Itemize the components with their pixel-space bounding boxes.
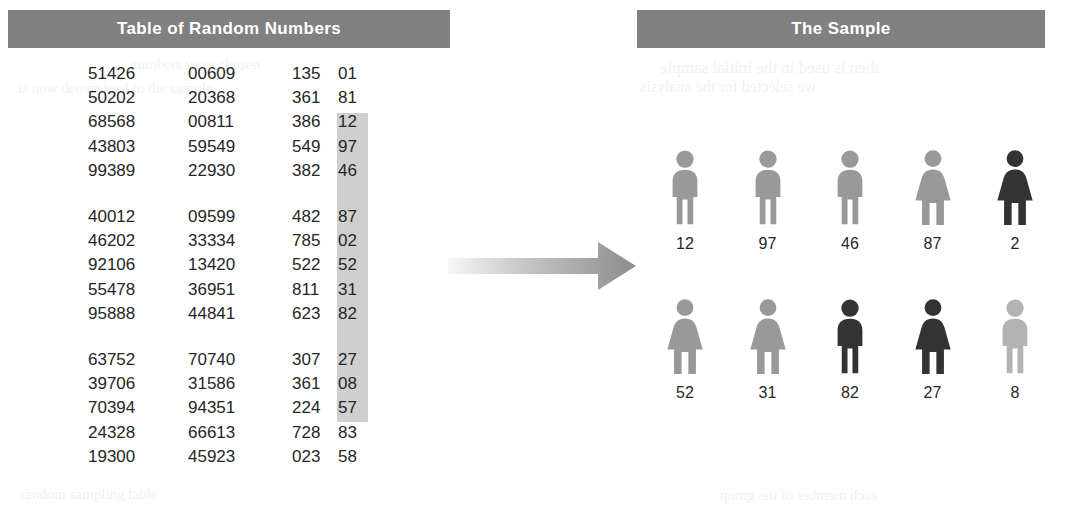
sample-person-label: 31 — [759, 384, 777, 402]
panel-header-label: Table of Random Numbers — [117, 19, 341, 39]
sample-person-8: 8 — [985, 285, 1045, 402]
table-cell-random-number: 95888 — [88, 302, 188, 326]
person-female-icon — [912, 285, 954, 377]
page-bleed-text: each member of the group — [720, 487, 877, 504]
sample-person-label: 27 — [924, 384, 942, 402]
table-cell-random-number: 44841 — [188, 302, 292, 326]
table-cell-selected-digits: 31 — [338, 278, 372, 302]
table-cell-random-number: 39706 — [88, 372, 188, 396]
page-bleed-text: then is used in the initial sample — [660, 58, 879, 78]
table-cell-selected-digits: 82 — [338, 302, 372, 326]
table-cell-random-number: 33334 — [188, 229, 292, 253]
table-cell-random-number: 24328 — [88, 420, 188, 444]
table-cell-random-number: 68568 — [88, 110, 188, 134]
person-male-icon — [831, 285, 869, 377]
table-cell-random-number: 55478 — [88, 278, 188, 302]
table-row: 685680081138612 — [88, 110, 372, 134]
table-cell-selected-digits: 01 — [338, 62, 372, 86]
table-cell-random-number: 13420 — [188, 253, 292, 277]
sample-person-97: 97 — [738, 136, 798, 253]
sample-row-1: 129746872 — [655, 136, 1045, 253]
sample-person-label: 97 — [759, 235, 777, 253]
table-cell-selected-digits: 83 — [338, 420, 372, 444]
table-cell-selected-digits: 87 — [338, 205, 372, 229]
panel-header-table-of-random-numbers: Table of Random Numbers — [8, 10, 450, 48]
table-row: 514260060913501 — [88, 62, 372, 86]
sample-person-2: 2 — [985, 136, 1045, 253]
table-cell-random-number: 09599 — [188, 205, 292, 229]
person-male-icon — [666, 136, 704, 228]
table-row: 993892293038246 — [88, 159, 372, 183]
table-cell-selected-digits: 57 — [338, 396, 372, 420]
table-row: 400120959948287 — [88, 205, 372, 229]
table-cell-random-number: 549 — [292, 135, 338, 159]
table-cell-random-number: 386 — [292, 110, 338, 134]
table-cell-random-number: 46202 — [88, 229, 188, 253]
sample-person-82: 82 — [820, 285, 880, 402]
table-spacer-row — [88, 326, 372, 348]
page-bleed-text: random sampling table — [20, 486, 157, 503]
table-row: 637527074030727 — [88, 348, 372, 372]
sample-person-46: 46 — [820, 136, 880, 253]
table-cell-random-number: 023 — [292, 445, 338, 469]
table-cell-random-number: 51426 — [88, 62, 188, 86]
table-row: 243286661372883 — [88, 420, 372, 444]
table-cell-selected-digits: 52 — [338, 253, 372, 277]
table-cell-random-number: 135 — [292, 62, 338, 86]
sample-person-87: 87 — [903, 136, 963, 253]
sample-row-2: 523182278 — [655, 285, 1045, 402]
table-cell-random-number: 19300 — [88, 445, 188, 469]
table-row: 502022036836181 — [88, 86, 372, 110]
table-cell-random-number: 361 — [292, 86, 338, 110]
table-cell-random-number: 40012 — [88, 205, 188, 229]
table-cell-random-number: 70740 — [188, 348, 292, 372]
sample-person-label: 52 — [676, 384, 694, 402]
person-male-icon — [831, 136, 869, 228]
person-female-icon — [994, 136, 1036, 228]
table-cell-selected-digits: 97 — [338, 135, 372, 159]
table-cell-random-number: 361 — [292, 372, 338, 396]
sample-person-12: 12 — [655, 136, 715, 253]
table-cell-random-number: 31586 — [188, 372, 292, 396]
table-cell-selected-digits: 27 — [338, 348, 372, 372]
table-cell-random-number: 36951 — [188, 278, 292, 302]
person-female-icon — [747, 285, 789, 377]
table-cell-random-number: 70394 — [88, 396, 188, 420]
person-female-icon — [664, 285, 706, 377]
random-numbers-table-wrapper: 5142600609135015020220368361816856800811… — [88, 62, 388, 469]
page-bleed-text: we selected for the analysis — [640, 78, 816, 96]
table-row: 193004592302358 — [88, 445, 372, 469]
table-row: 438035954954997 — [88, 135, 372, 159]
table-cell-selected-digits: 12 — [338, 110, 372, 134]
panel-header-label: The Sample — [791, 19, 890, 39]
table-cell-selected-digits: 46 — [338, 159, 372, 183]
table-spacer-cell — [88, 326, 372, 348]
table-cell-random-number: 623 — [292, 302, 338, 326]
table-cell-random-number: 66613 — [188, 420, 292, 444]
table-spacer-cell — [88, 183, 372, 205]
table-cell-random-number: 20368 — [188, 86, 292, 110]
table-cell-selected-digits: 08 — [338, 372, 372, 396]
table-cell-random-number: 728 — [292, 420, 338, 444]
flow-arrow — [448, 238, 636, 294]
sample-person-label: 2 — [1011, 235, 1020, 253]
sample-person-label: 87 — [924, 235, 942, 253]
random-numbers-table: 5142600609135015020220368361816856800811… — [88, 62, 372, 469]
sample-person-27: 27 — [903, 285, 963, 402]
table-row: 921061342052252 — [88, 253, 372, 277]
table-row: 958884484162382 — [88, 302, 372, 326]
table-cell-random-number: 45923 — [188, 445, 292, 469]
table-cell-selected-digits: 81 — [338, 86, 372, 110]
table-cell-selected-digits: 58 — [338, 445, 372, 469]
person-male-icon — [996, 285, 1034, 377]
table-cell-random-number: 92106 — [88, 253, 188, 277]
table-cell-random-number: 00811 — [188, 110, 292, 134]
table-cell-random-number: 00609 — [188, 62, 292, 86]
table-cell-random-number: 50202 — [88, 86, 188, 110]
panel-header-the-sample: The Sample — [637, 10, 1045, 48]
table-row: 397063158636108 — [88, 372, 372, 396]
table-cell-random-number: 307 — [292, 348, 338, 372]
sample-person-31: 31 — [738, 285, 798, 402]
table-cell-selected-digits: 02 — [338, 229, 372, 253]
table-cell-random-number: 382 — [292, 159, 338, 183]
